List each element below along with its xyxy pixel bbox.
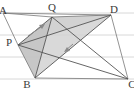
- vertex-label-P: P: [6, 36, 12, 48]
- vertex-label-C: C: [128, 78, 134, 90]
- geometry-diagram-page: A Q D P B C: [0, 0, 134, 92]
- vertex-label-A: A: [0, 4, 7, 16]
- segment-D-C: [111, 15, 128, 79]
- shaded-regions-group: [18, 15, 111, 78]
- geometry-figure: A Q D P B C: [0, 0, 134, 92]
- vertex-label-B: B: [23, 78, 30, 90]
- vertex-label-D: D: [110, 3, 118, 15]
- vertex-label-Q: Q: [48, 1, 56, 13]
